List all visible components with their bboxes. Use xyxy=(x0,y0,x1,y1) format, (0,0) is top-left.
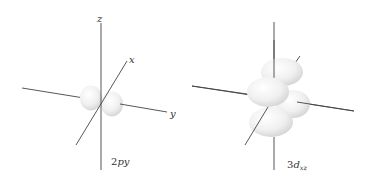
lobe-right xyxy=(101,92,123,117)
x-axis-label: x xyxy=(129,54,135,65)
y-axis-right xyxy=(120,104,167,112)
horizontal-axis-left-front xyxy=(192,86,247,94)
y-axis-left xyxy=(22,88,84,98)
lobe-front-top xyxy=(247,77,289,107)
orbital-figure: z x y 2py xyxy=(0,0,376,182)
z-axis-label: z xyxy=(96,13,103,24)
orbital-diagrams: z x y 2py xyxy=(0,0,376,182)
orbital-label-3dxz: 3dxz xyxy=(287,159,307,172)
y-axis-label: y xyxy=(169,108,176,119)
panel-2py: z x y 2py xyxy=(22,13,176,170)
panel-3dxz: 3dxz xyxy=(192,22,354,172)
lobe-front-bottom xyxy=(249,107,293,137)
orbital-label-2py: 2py xyxy=(111,156,130,167)
